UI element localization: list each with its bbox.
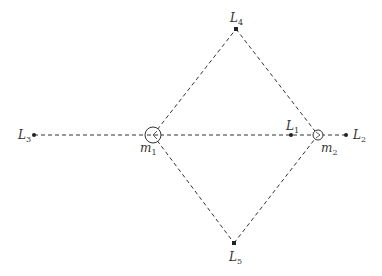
line-m1-l5: [153, 135, 234, 243]
point-l3: [32, 133, 36, 137]
point-l4: [234, 27, 238, 31]
lagrange-diagram: L3 m1 L1 m2 L2 L4 L5: [0, 0, 382, 276]
point-l5: [232, 241, 236, 245]
point-l1: [289, 133, 293, 137]
label-l3: L3: [17, 128, 31, 144]
line-l4-m2: [236, 29, 318, 135]
label-l4: L4: [229, 11, 243, 27]
mass-m2: [313, 130, 323, 140]
label-l2: L2: [352, 128, 366, 144]
label-l5: L5: [228, 250, 242, 266]
point-l2: [344, 133, 348, 137]
line-l5-m2: [234, 135, 318, 243]
line-m1-l4: [153, 29, 236, 135]
label-m2: m2: [321, 141, 337, 157]
label-l1: L1: [285, 119, 299, 135]
